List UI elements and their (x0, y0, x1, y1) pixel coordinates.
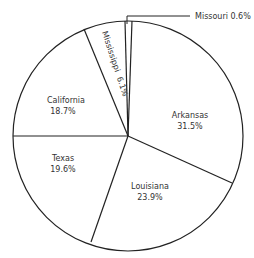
label-arkansas-name: Arkansas (172, 111, 208, 120)
label-missouri: Missouri 0.6% (195, 12, 251, 21)
pie-chart: Arkansas 31.5% Louisiana 23.9% Texas 19.… (0, 0, 254, 258)
label-texas-name: Texas (51, 154, 74, 163)
label-arkansas-pct: 31.5% (177, 122, 203, 131)
label-louisiana-pct: 23.9% (137, 193, 163, 202)
label-texas-pct: 19.6% (50, 165, 76, 174)
label-california-pct: 18.7% (50, 107, 76, 116)
label-louisiana-name: Louisiana (131, 182, 169, 191)
label-california-name: California (47, 96, 85, 105)
